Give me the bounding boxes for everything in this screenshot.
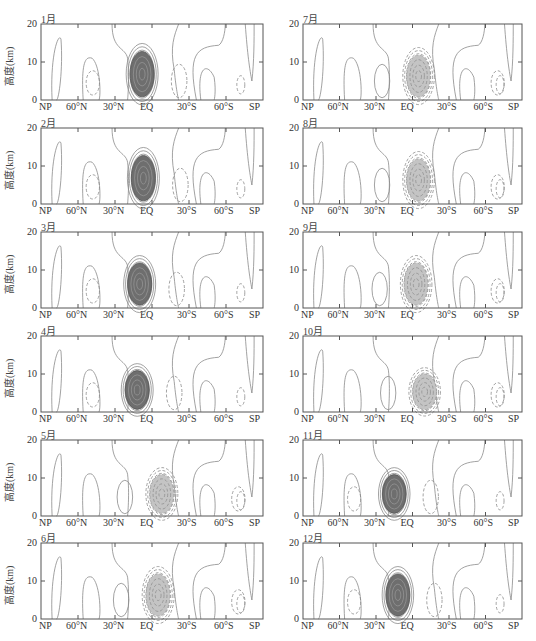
x-tick-label: 30°S [437,101,457,112]
contour-plot [41,336,263,412]
contour-plot [303,128,522,204]
y-tick-label: 10 [289,56,299,67]
x-tick-label: 60°N [66,101,87,112]
panel-month-11: 11月01020NP60°N30°NEQ30°S60°SSP [303,440,522,516]
y-tick-label: 0 [294,198,299,209]
x-tick-label: 60°S [214,309,234,320]
x-tick-label: 30°N [103,309,124,320]
x-tick-label: SP [508,517,519,528]
x-tick-label: SP [249,205,260,216]
x-tick-label: 60°S [214,620,234,631]
y-tick-label: 10 [27,368,37,379]
x-tick-label: SP [249,517,260,528]
x-tick-label: 30°S [177,309,197,320]
x-tick-label: EQ [401,309,414,320]
x-tick-label: SP [508,620,519,631]
x-tick-label: EQ [401,620,414,631]
y-tick-label: 20 [27,330,37,341]
x-tick-label: 30°N [103,205,124,216]
contour-plot [41,24,263,100]
x-tick-label: 30°S [177,620,197,631]
x-tick-label: 30°S [437,517,457,528]
y-tick-label: 20 [289,122,299,133]
y-tick-label: 20 [27,434,37,445]
y-axis-label: 高度(km) [1,359,16,398]
x-tick-label: NP [301,309,314,320]
y-axis-label: 高度(km) [1,151,16,190]
y-tick-label: 10 [289,575,299,586]
x-tick-label: NP [301,101,314,112]
x-tick-label: EQ [140,517,153,528]
x-tick-label: 60°S [474,517,494,528]
y-tick-label: 0 [32,510,37,521]
y-tick-label: 0 [32,406,37,417]
panel-month-12: 12月01020NP60°N30°NEQ30°S60°SSP [303,543,522,619]
y-tick-label: 10 [289,264,299,275]
panel-month-10: 10月01020NP60°N30°NEQ30°S60°SSP [303,336,522,412]
x-tick-label: EQ [140,413,153,424]
y-tick-label: 20 [27,122,37,133]
x-tick-label: 60°N [328,413,349,424]
y-tick-label: 20 [289,226,299,237]
x-tick-label: 60°N [328,101,349,112]
x-tick-label: 60°S [214,517,234,528]
x-tick-label: EQ [140,620,153,631]
x-tick-label: 30°N [364,101,385,112]
x-tick-label: 30°N [364,309,385,320]
x-tick-label: EQ [401,205,414,216]
y-tick-label: 10 [27,264,37,275]
x-tick-label: 60°S [214,413,234,424]
panel-month-8: 8月01020NP60°N30°NEQ30°S60°SSP [303,128,522,204]
y-tick-label: 0 [294,94,299,105]
y-tick-label: 20 [289,18,299,29]
x-tick-label: SP [508,413,519,424]
x-tick-label: 30°S [437,620,457,631]
x-tick-label: NP [39,413,52,424]
y-tick-label: 0 [32,94,37,105]
x-tick-label: EQ [401,517,414,528]
x-tick-label: SP [249,413,260,424]
panel-month-4: 4月01020高度(km)NP60°N30°NEQ30°S60°SSP [41,336,263,412]
x-tick-label: 60°N [66,309,87,320]
y-tick-label: 20 [289,537,299,548]
contour-plot [303,336,522,412]
x-tick-label: EQ [140,101,153,112]
x-tick-label: NP [39,205,52,216]
x-tick-label: 30°N [364,620,385,631]
x-tick-label: 60°N [66,413,87,424]
x-tick-label: NP [301,620,314,631]
x-tick-label: 60°S [474,309,494,320]
x-tick-label: 30°S [177,413,197,424]
y-tick-label: 10 [27,56,37,67]
y-tick-label: 20 [27,18,37,29]
x-tick-label: SP [249,620,260,631]
contour-plot [41,440,263,516]
x-tick-label: NP [301,517,314,528]
x-tick-label: NP [39,517,52,528]
x-tick-label: NP [301,413,314,424]
contour-plot [303,232,522,308]
contour-plot [41,232,263,308]
x-tick-label: 30°S [177,205,197,216]
y-tick-label: 0 [294,406,299,417]
y-tick-label: 10 [27,575,37,586]
x-tick-label: 30°N [364,205,385,216]
y-tick-label: 10 [289,160,299,171]
y-tick-label: 0 [32,198,37,209]
y-tick-label: 0 [294,302,299,313]
x-tick-label: 60°N [328,205,349,216]
y-axis-label: 高度(km) [1,463,16,502]
contour-plot [303,24,522,100]
x-tick-label: 30°N [103,101,124,112]
panel-month-1: 1月01020高度(km)NP60°N30°NEQ30°S60°SSP [41,24,263,100]
x-tick-label: 30°S [437,413,457,424]
x-tick-label: EQ [140,309,153,320]
x-tick-label: 30°N [364,517,385,528]
panel-month-6: 6月01020高度(km)NP60°N30°NEQ30°S60°SSP [41,543,263,619]
y-tick-label: 0 [294,510,299,521]
x-tick-label: 60°N [66,205,87,216]
panel-month-2: 2月01020高度(km)NP60°N30°NEQ30°S60°SSP [41,128,263,204]
x-tick-label: 60°N [328,620,349,631]
x-tick-label: 60°S [214,101,234,112]
x-tick-label: NP [301,205,314,216]
